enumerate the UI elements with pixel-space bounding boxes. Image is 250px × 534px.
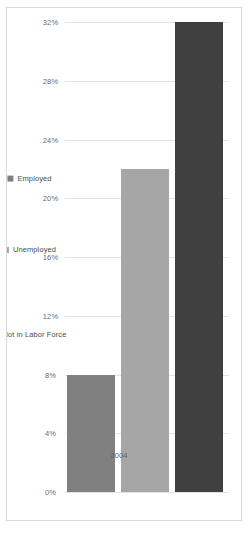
- legend-label: Unemployed: [13, 245, 56, 254]
- bar-not-in-labor-force[interactable]: [175, 22, 223, 492]
- plot-area: [59, 8, 241, 520]
- category-axis-label: 2004: [59, 451, 179, 460]
- chart-page: 32%28%24%20%16%12%8%4%0% 2004 EmployedUn…: [0, 0, 250, 534]
- legend-item-employed[interactable]: Employed: [8, 174, 52, 183]
- legend-swatch-icon: [6, 246, 9, 252]
- bar-unemployed[interactable]: [121, 169, 169, 492]
- legend-label: Employed: [18, 174, 52, 183]
- bar-employed[interactable]: [67, 375, 115, 493]
- legend-swatch-icon: [8, 175, 14, 181]
- chart-frame: 32%28%24%20%16%12%8%4%0% 2004 EmployedUn…: [6, 7, 242, 521]
- rotated-chart-stage: 32%28%24%20%16%12%8%4%0% 2004 EmployedUn…: [7, 8, 241, 520]
- legend-label: Not in Labor Force: [6, 330, 67, 339]
- plot-inner: [65, 22, 229, 492]
- chart-legend: EmployedUnemployedNot in Labor Force: [15, 8, 45, 520]
- gridline: [65, 492, 229, 493]
- bar-series-group: [65, 22, 229, 492]
- legend-item-not-in-labor-force[interactable]: Not in Labor Force: [6, 330, 67, 339]
- legend-item-unemployed[interactable]: Unemployed: [6, 245, 57, 254]
